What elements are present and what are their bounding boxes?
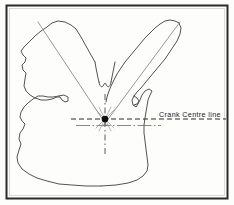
diagram-background xyxy=(0,0,234,205)
engine-block-diagram-canvas: Crank Centre line xyxy=(0,0,234,205)
crank-centre-point xyxy=(102,116,109,123)
crank-centre-line-label: Crank Centre line xyxy=(159,110,221,119)
diagram-figure: Crank Centre line xyxy=(0,0,234,205)
